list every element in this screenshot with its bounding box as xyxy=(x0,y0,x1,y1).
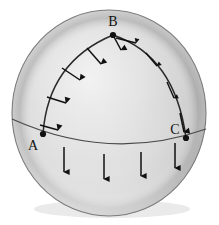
vertex-label-c: C xyxy=(170,122,179,137)
vertex-label-a: A xyxy=(28,138,39,153)
sphere-figure: A B C xyxy=(0,0,219,225)
sphere-body xyxy=(12,10,206,216)
vertex-dot-c xyxy=(183,135,189,141)
sphere-diagram-canvas: A B C xyxy=(0,0,219,225)
vertex-label-b: B xyxy=(108,14,117,29)
sphere-bottom-highlight xyxy=(12,10,206,216)
vertex-dot-a xyxy=(40,131,46,137)
vertex-dot-b xyxy=(110,32,116,38)
